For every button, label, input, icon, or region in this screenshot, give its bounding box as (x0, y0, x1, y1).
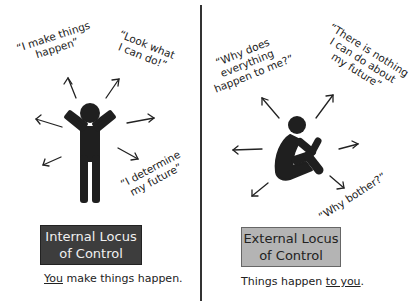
caption-to-you: to you (326, 275, 361, 288)
external-caption: Things happen to you. (241, 275, 364, 288)
caption-prefix: Things happen (241, 275, 326, 288)
person-sitting-hugging-knees-icon (0, 0, 410, 308)
external-title-line1: External Locus (243, 231, 338, 246)
external-locus-label: External Locus of Control (241, 227, 341, 267)
external-title-line2: of Control (259, 248, 323, 263)
caption-suffix: . (361, 275, 365, 288)
